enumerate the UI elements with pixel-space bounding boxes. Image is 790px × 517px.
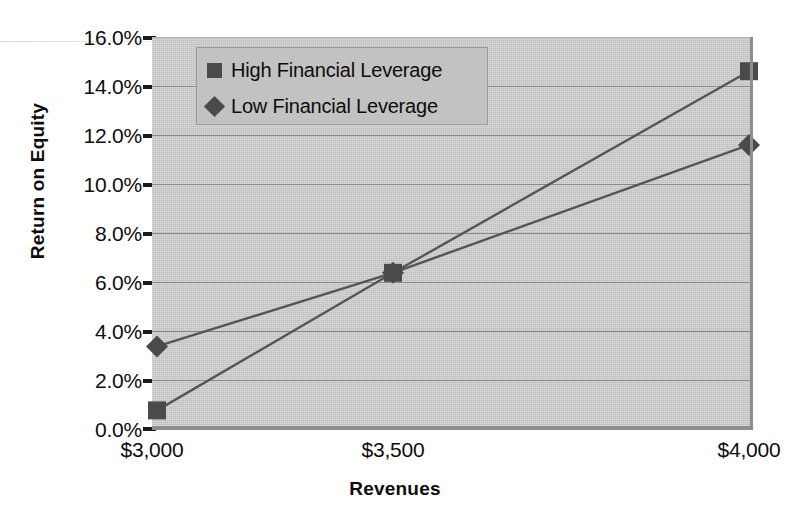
data-point-high-4000 <box>740 62 758 80</box>
legend-entry-low-financial-leverage: Low Financial Leverage <box>207 88 477 124</box>
y-tick-label-10: 10.0% <box>83 173 142 197</box>
y-tick-label-6: 6.0% <box>95 271 142 295</box>
series-line-low-financial-leverage <box>157 145 749 347</box>
data-point-high-3000 <box>148 401 166 419</box>
legend-label-high: High Financial Leverage <box>231 59 442 82</box>
x-tick-label-4000: $4,000 <box>689 438 790 462</box>
legend-entry-high-financial-leverage: High Financial Leverage <box>207 52 477 88</box>
x-tick-label-3000: $3,000 <box>92 438 212 462</box>
plot-border-right <box>750 37 753 430</box>
chart-legend: High Financial Leverage Low Financial Le… <box>196 47 488 125</box>
y-tick-label-4: 4.0% <box>95 320 142 344</box>
legend-label-low: Low Financial Leverage <box>231 95 438 118</box>
data-point-low-4000 <box>738 134 760 156</box>
data-point-low-3000 <box>146 335 168 357</box>
plot-area: High Financial Leverage Low Financial Le… <box>152 37 753 430</box>
y-axis-title: Return on Equity <box>27 61 49 301</box>
plot-border-top <box>152 37 753 38</box>
legend-diamond-marker-icon <box>204 95 225 116</box>
y-tick-label-12: 12.0% <box>83 124 142 148</box>
y-tick-label-14: 14.0% <box>83 75 142 99</box>
y-tick-label-2: 2.0% <box>95 369 142 393</box>
chart-figure: Return on Equity 16.0% 14.0% 12.0% 10.0%… <box>0 0 790 517</box>
plot-border-bottom <box>152 426 753 430</box>
y-tick-label-8: 8.0% <box>95 222 142 246</box>
x-tick-label-3500: $3,500 <box>333 438 453 462</box>
y-tick-label-16: 16.0% <box>83 26 142 50</box>
x-axis-title: Revenues <box>0 478 790 500</box>
legend-square-marker-icon <box>207 63 222 78</box>
